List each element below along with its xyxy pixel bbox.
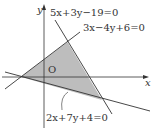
y-axis-label: y [37, 5, 43, 15]
equation-label-l2: 3x−4y+6=0 [83, 23, 145, 33]
x-axis-label: x [145, 78, 151, 88]
equation-label-l1: 5x+3y−19=0 [50, 8, 118, 18]
shaded-region [21, 42, 102, 100]
leader-curve [62, 92, 68, 110]
equation-label-l3: 2x+7y+4=0 [46, 113, 108, 123]
origin-label: O [48, 65, 56, 75]
